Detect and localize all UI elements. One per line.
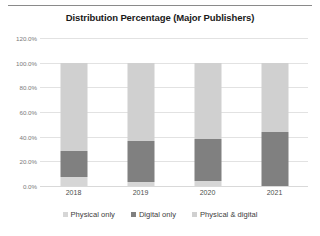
x-axis-tick-label-2021: 2021 (241, 189, 308, 196)
y-axis-tick-label: 120.0% (3, 35, 37, 42)
bars-layer (40, 38, 308, 186)
y-axis-tick-label: 40.0% (3, 134, 37, 141)
y-axis-tick-label: 100.0% (3, 60, 37, 67)
x-axis-tick-label-2018: 2018 (40, 189, 107, 196)
stacked-bar-2021[interactable] (261, 63, 288, 186)
legend-item-label: Digital only (139, 210, 176, 219)
bar-group-2019[interactable] (107, 38, 174, 186)
legend-swatch-icon (131, 212, 136, 217)
bar-group-2020[interactable] (174, 38, 241, 186)
chart-container: Distribution Percentage (Major Publisher… (0, 0, 320, 236)
legend-item-label: Physical only (71, 210, 115, 219)
bar-segment-digital-only[interactable] (127, 141, 154, 182)
bar-segment-digital-only[interactable] (261, 132, 288, 186)
chart-legend: Physical onlyDigital onlyPhysical & digi… (0, 210, 320, 219)
bar-segment-physical-digital[interactable] (60, 63, 87, 152)
legend-swatch-icon (63, 212, 68, 217)
bar-segment-physical-only[interactable] (60, 177, 87, 186)
x-axis-line (40, 186, 308, 187)
x-axis-tick-label-2020: 2020 (174, 189, 241, 196)
legend-item-label: Physical & digital (200, 210, 257, 219)
y-axis-tick-label: 80.0% (3, 84, 37, 91)
legend-swatch-icon (192, 212, 197, 217)
bar-segment-physical-digital[interactable] (127, 63, 154, 141)
stacked-bar-2018[interactable] (60, 63, 87, 186)
chart-title: Distribution Percentage (Major Publisher… (0, 12, 320, 23)
legend-item-physical-digital[interactable]: Physical & digital (192, 210, 257, 219)
y-axis-tick-label: 20.0% (3, 158, 37, 165)
x-axis-tick-label-2019: 2019 (107, 189, 174, 196)
legend-item-physical-only[interactable]: Physical only (63, 210, 115, 219)
stacked-bar-2020[interactable] (194, 63, 221, 186)
bar-group-2021[interactable] (241, 38, 308, 186)
bar-segment-physical-digital[interactable] (194, 63, 221, 139)
bar-segment-digital-only[interactable] (194, 139, 221, 181)
bar-segment-physical-digital[interactable] (261, 63, 288, 133)
y-axis: 0.0%20.0%40.0%60.0%80.0%100.0%120.0% (0, 38, 37, 186)
bar-group-2018[interactable] (40, 38, 107, 186)
bar-segment-digital-only[interactable] (60, 151, 87, 177)
x-axis: 2018201920202021 (40, 189, 308, 203)
y-axis-tick-label: 60.0% (3, 109, 37, 116)
legend-item-digital-only[interactable]: Digital only (131, 210, 176, 219)
stacked-bar-2019[interactable] (127, 63, 154, 186)
y-axis-tick-label: 0.0% (3, 183, 37, 190)
